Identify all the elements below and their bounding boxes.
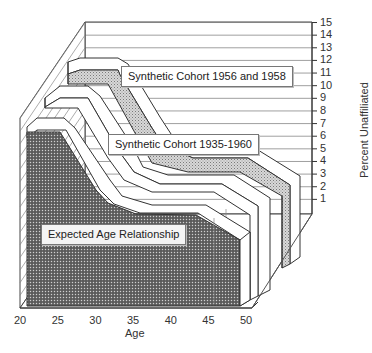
x-tick-label: 20 <box>14 315 26 326</box>
y-tick-label: 8 <box>320 105 326 116</box>
y-tick-label: 14 <box>320 29 332 40</box>
y-tick-label: 7 <box>320 118 326 129</box>
x-tick-label: 30 <box>89 315 101 326</box>
callout-synthetic-1935-1960: Synthetic Cohort 1935-1960 <box>108 134 259 155</box>
y-tick-label: 15 <box>320 17 332 28</box>
callout-synthetic-1956-1958: Synthetic Cohort 1956 and 1958 <box>121 66 293 87</box>
y-tick-label: 10 <box>320 80 332 91</box>
x-tick-label: 25 <box>52 315 64 326</box>
chart-canvas <box>0 0 372 353</box>
y-tick-label: 6 <box>320 130 326 141</box>
y-tick-label: 3 <box>320 168 326 179</box>
y-axis-title: Percent Unaffiliated <box>358 82 370 178</box>
y-tick-label: 11 <box>320 67 331 78</box>
y-tick-label: 4 <box>320 155 326 166</box>
callout-expected-age-relationship: Expected Age Relationship <box>41 224 186 245</box>
y-tick-label: 2 <box>320 181 326 192</box>
x-axis-title: Age <box>125 327 145 339</box>
x-tick-label: 50 <box>240 315 252 326</box>
y-tick-label: 12 <box>320 54 332 65</box>
y-tick-label: 13 <box>320 42 332 53</box>
chart-3d-ribbon: Synthetic Cohort 1956 and 1958 Synthetic… <box>0 0 372 353</box>
y-tick-label: 5 <box>320 143 326 154</box>
x-tick-label: 35 <box>127 315 139 326</box>
y-tick-label: 9 <box>320 92 326 103</box>
x-tick-label: 45 <box>202 315 214 326</box>
y-tick-label: 1 <box>320 193 326 204</box>
x-tick-label: 40 <box>165 315 177 326</box>
